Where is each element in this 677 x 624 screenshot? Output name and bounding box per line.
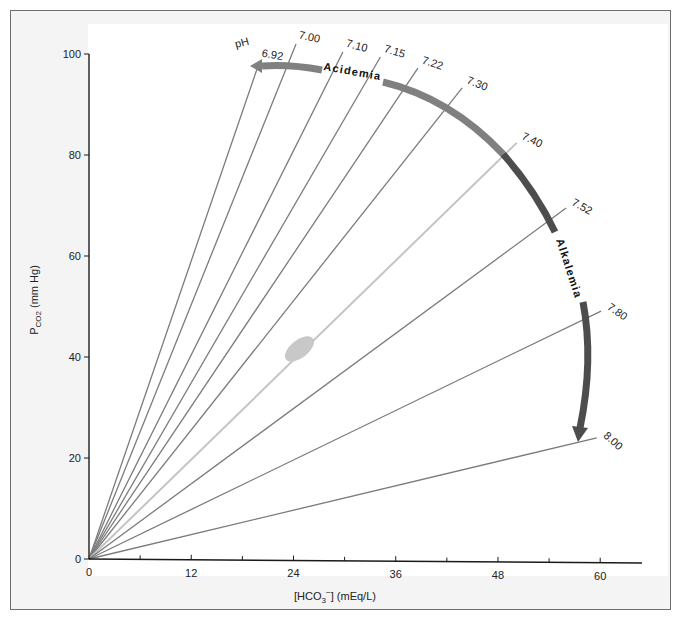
- y-tick-label: 40: [69, 351, 81, 363]
- x-tick-label: 48: [492, 569, 504, 581]
- ph-label-8-00: 8.00: [601, 429, 625, 452]
- ph-line-7-52: [89, 208, 566, 559]
- ph-label-7-80: 7.80: [605, 300, 629, 322]
- ph-label-7-15: 7.15: [383, 42, 407, 60]
- alkalemia-arrow-head: [572, 426, 588, 442]
- ph-label-7-40: 7.40: [520, 130, 544, 150]
- acidemia-label: Acidemia: [323, 60, 383, 82]
- x-tick-label: 60: [594, 570, 606, 582]
- ph-line-7-80: [89, 311, 601, 559]
- acidemia-arrow-head-segment: [262, 66, 322, 71]
- ph-label-7-52: 7.52: [570, 196, 595, 217]
- alkalemia-label: Alkalemia: [554, 237, 585, 300]
- ph-line-8-00: [89, 438, 597, 559]
- ph-labels: 6.927.007.107.157.227.307.407.527.808.00…: [233, 29, 629, 453]
- ph-label-7-00: 7.00: [298, 29, 321, 45]
- x-axis-title: [HCO3−] (mEq/L): [294, 588, 376, 605]
- x-tick-label: 24: [287, 567, 299, 579]
- ph-line-7-22: [89, 68, 418, 559]
- ph-line-7-00: [89, 44, 296, 559]
- ph-nomogram-chart: AcidemiaAlkalemia 0204060801000122436486…: [0, 0, 677, 624]
- x-axis: [89, 559, 642, 563]
- ph-line-7-30: [89, 88, 462, 559]
- ph-line-7-10: [89, 52, 343, 559]
- y-tick-label: 60: [69, 250, 81, 262]
- y-tick-label: 0: [75, 553, 81, 565]
- x-tick-label: 36: [390, 568, 402, 580]
- ph-prefix-label: pH: [233, 35, 250, 50]
- y-tick-label: 100: [63, 48, 81, 60]
- ph-isopleth-lines: [89, 44, 601, 559]
- normal-point-ellipse: [281, 331, 319, 366]
- alkalemia-arc-upper: [503, 154, 555, 232]
- axes: 02040608010001224364860[HCO3−] (mEq/L)PC…: [28, 48, 642, 605]
- y-tick-label: 80: [69, 149, 81, 161]
- ph-arc-arrows: AcidemiaAlkalemia: [250, 59, 588, 442]
- x-tick-label: 0: [86, 566, 92, 578]
- ph-label-7-10: 7.10: [345, 37, 369, 54]
- ph-label-7-30: 7.30: [465, 74, 489, 93]
- x-tick-label: 12: [185, 567, 197, 579]
- ph-label-7-22: 7.22: [421, 54, 445, 72]
- ph-label-6-92: 6.92: [261, 47, 284, 63]
- y-axis-title: PCO2 (mm Hg): [28, 265, 43, 335]
- y-tick-label: 20: [69, 452, 81, 464]
